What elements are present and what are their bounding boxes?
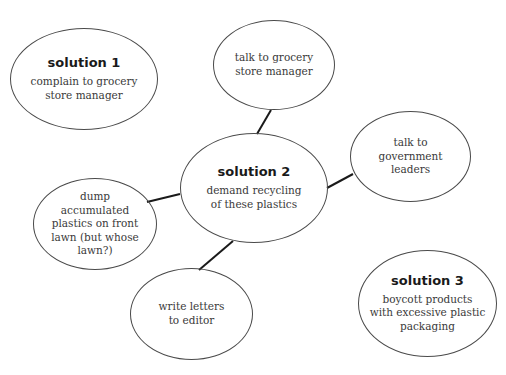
node-text: talk to government leaders: [378, 136, 442, 177]
node-talk-government: talk to government leaders: [350, 111, 471, 202]
node-dump-plastics: dump accumulated plastics on front lawn …: [33, 178, 157, 270]
edge-solution2-to-talk-government: [327, 174, 353, 188]
node-solution-1: solution 1 complain to grocery store man…: [10, 28, 158, 130]
node-title: solution 2: [218, 165, 291, 178]
node-text: dump accumulated plastics on front lawn …: [51, 190, 139, 258]
node-text: demand recycling of these plastics: [206, 184, 301, 211]
node-solution-3: solution 3 boycott products with excessi…: [358, 250, 497, 357]
node-text: talk to grocery store manager: [235, 51, 314, 78]
edge-solution2-to-dump-plastics: [147, 194, 180, 202]
edge-solution2-to-talk-grocery: [257, 110, 271, 134]
node-text: complain to grocery store manager: [31, 75, 138, 102]
node-solution-2: solution 2 demand recycling of these pla…: [180, 133, 328, 243]
node-text: boycott products with excessive plastic …: [370, 293, 486, 334]
node-title: solution 3: [391, 274, 464, 287]
node-talk-grocery: talk to grocery store manager: [213, 20, 335, 110]
node-write-letters: write letters to editor: [130, 268, 253, 360]
node-title: solution 1: [48, 56, 121, 69]
edge-solution2-to-write-letters: [199, 241, 233, 270]
mind-map-canvas: solution 1 complain to grocery store man…: [0, 0, 506, 375]
node-text: write letters to editor: [159, 300, 225, 327]
